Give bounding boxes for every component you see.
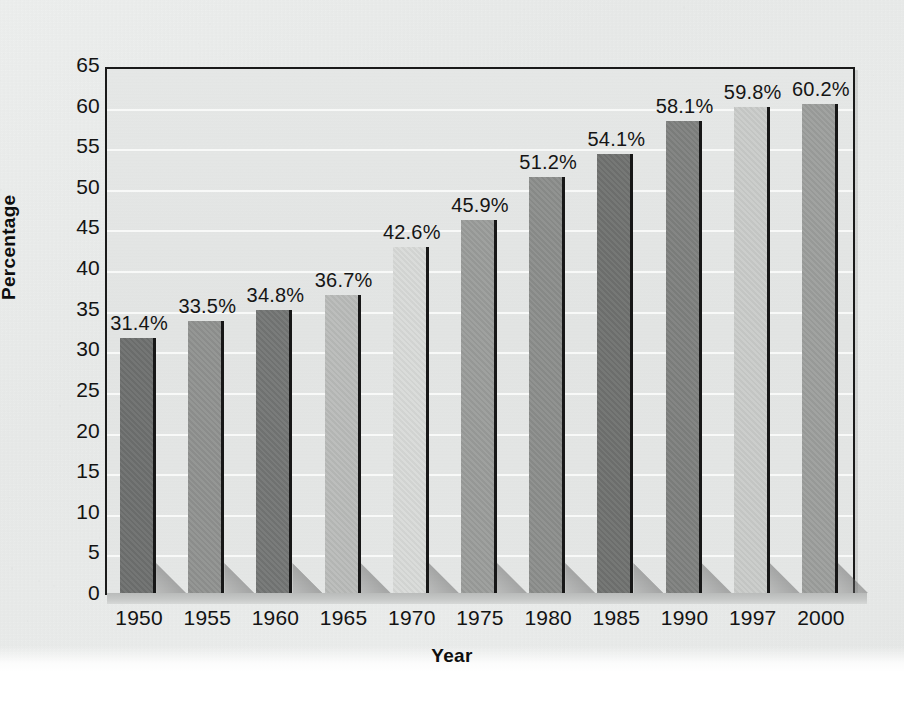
y-axis-tick-label: 20 (58, 419, 100, 443)
bar-value-label: 42.6% (367, 221, 457, 244)
y-axis-tick-label: 30 (58, 337, 100, 361)
bar-2000[interactable] (802, 104, 838, 593)
y-axis-tick-label: 0 (58, 581, 100, 605)
bar-texture (325, 295, 358, 593)
bar-texture (529, 177, 562, 593)
bar-shadow (770, 563, 800, 593)
y-axis-tick-label: 25 (58, 378, 100, 402)
bar-shadow (497, 563, 527, 593)
bar-chart: Percentage 05101520253035404550556065 19… (0, 0, 904, 712)
y-axis-title: Percentage (0, 195, 20, 300)
bar-1980[interactable] (529, 177, 565, 593)
bar-value-label: 51.2% (503, 151, 593, 174)
bar-shadow (838, 563, 868, 593)
bar-1950[interactable] (120, 338, 156, 593)
bar-shadow (156, 563, 186, 593)
y-axis-tick-label: 50 (58, 175, 100, 199)
y-axis-tick-label: 60 (58, 94, 100, 118)
y-axis-tick-label: 15 (58, 459, 100, 483)
y-axis-tick-labels: 05101520253035404550556065 (52, 0, 100, 712)
x-axis-title: Year (0, 645, 904, 667)
bar-shadow (292, 563, 322, 593)
bar-texture (120, 338, 153, 593)
bar-texture (597, 154, 630, 593)
axis-baseline-shelf (107, 593, 867, 604)
bar-texture (256, 310, 289, 593)
bar-1985[interactable] (597, 154, 633, 593)
x-axis-tick-label: 2000 (776, 606, 866, 630)
bar-value-label: 54.1% (571, 128, 661, 151)
bar-shadow (361, 563, 391, 593)
bar-1997[interactable] (734, 107, 770, 593)
bar-texture (734, 107, 767, 593)
plot-area (105, 67, 855, 595)
y-axis-tick-label: 45 (58, 215, 100, 239)
bar-1975[interactable] (461, 220, 497, 593)
bar-1960[interactable] (256, 310, 292, 593)
bar-shadow (429, 563, 459, 593)
bar-shadow (633, 563, 663, 593)
y-axis-tick-label: 40 (58, 256, 100, 280)
bar-texture (188, 321, 221, 593)
bar-shadow (224, 563, 254, 593)
y-axis-tick-label: 55 (58, 134, 100, 158)
bar-texture (393, 247, 426, 593)
scanned-chart-page: Percentage 05101520253035404550556065 19… (0, 0, 904, 712)
bar-value-label: 36.7% (299, 269, 389, 292)
bar-1965[interactable] (325, 295, 361, 593)
bar-1970[interactable] (393, 247, 429, 593)
y-axis-tick-label: 5 (58, 540, 100, 564)
bar-shadow (702, 563, 732, 593)
bar-shadow (565, 563, 595, 593)
bar-1990[interactable] (666, 121, 702, 593)
bar-1955[interactable] (188, 321, 224, 593)
bar-texture (666, 121, 699, 593)
bar-value-label: 60.2% (776, 78, 866, 101)
bar-value-label: 45.9% (435, 194, 525, 217)
bar-texture (461, 220, 494, 593)
y-axis-tick-label: 10 (58, 500, 100, 524)
bar-texture (802, 104, 835, 593)
y-axis-tick-label: 65 (58, 53, 100, 77)
